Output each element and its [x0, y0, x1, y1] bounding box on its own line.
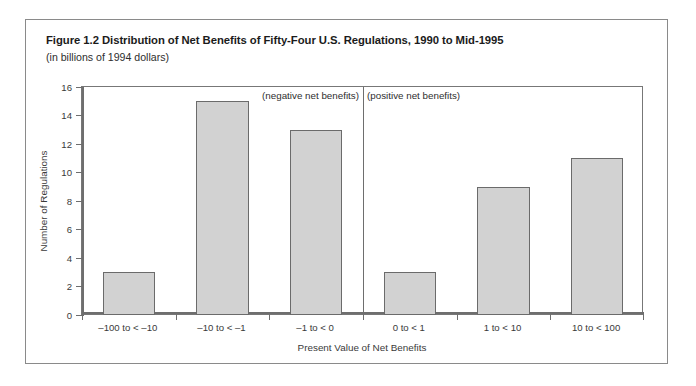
y-axis-title: Number of Regulations — [36, 86, 50, 315]
y-axis-tick-label: 12 — [50, 139, 72, 150]
x-axis-category-label: 0 to < 1 — [393, 322, 425, 333]
annotation-negative-net-benefits: (negative net benefits) — [82, 90, 363, 102]
y-axis-tick: 6 — [50, 224, 82, 236]
y-axis-tick-label: 16 — [50, 82, 72, 93]
bar — [103, 272, 155, 315]
x-axis-category-label: –10 to < –1 — [197, 322, 245, 333]
x-axis-category-label: 1 to < 10 — [484, 322, 522, 333]
y-axis-tick: 12 — [50, 138, 82, 150]
y-axis-tick: 2 — [50, 281, 82, 293]
bar — [571, 158, 623, 315]
y-axis-tick-label: 6 — [50, 224, 72, 235]
y-axis-tick: 10 — [50, 167, 82, 179]
chart-subtitle: (in billions of 1994 dollars) — [46, 50, 646, 64]
group-divider — [363, 87, 364, 315]
y-axis-tick-label: 0 — [50, 310, 72, 321]
x-axis-category-label: –100 to < –10 — [98, 322, 157, 333]
x-axis-category-label: 10 to < 100 — [572, 322, 620, 333]
y-axis-tick-label: 2 — [50, 281, 72, 292]
y-axis-tick: 8 — [50, 195, 82, 207]
y-axis-tick: 4 — [50, 252, 82, 264]
y-axis-tick: 16 — [50, 81, 82, 93]
y-axis-tick-label: 14 — [50, 110, 72, 121]
y-axis-tick-label: 8 — [50, 196, 72, 207]
y-axis-tick-label: 10 — [50, 167, 72, 178]
bar — [290, 130, 342, 315]
bar — [196, 101, 248, 315]
y-axis-tick: 0 — [50, 309, 82, 321]
page-title: Figure 1.2 Distribution of Net Benefits … — [46, 33, 646, 47]
x-axis-category-labels: –100 to < –10–10 to < –1–1 to < 00 to < … — [81, 322, 643, 338]
bar — [477, 187, 529, 315]
annotation-positive-net-benefits: (positive net benefits) — [367, 90, 460, 102]
y-axis-tick-label: 4 — [50, 253, 72, 264]
x-axis-category-label: –1 to < 0 — [296, 322, 334, 333]
x-axis-title: Present Value of Net Benefits — [81, 342, 643, 353]
figure-page: Figure 1.2 Distribution of Net Benefits … — [0, 0, 696, 386]
bar — [384, 272, 436, 315]
title-block: Figure 1.2 Distribution of Net Benefits … — [46, 33, 646, 64]
plot-area: 0246810121416 (negative net benefits) (p… — [81, 86, 643, 315]
figure-frame: Figure 1.2 Distribution of Net Benefits … — [25, 19, 668, 364]
y-axis-tick: 14 — [50, 110, 82, 122]
